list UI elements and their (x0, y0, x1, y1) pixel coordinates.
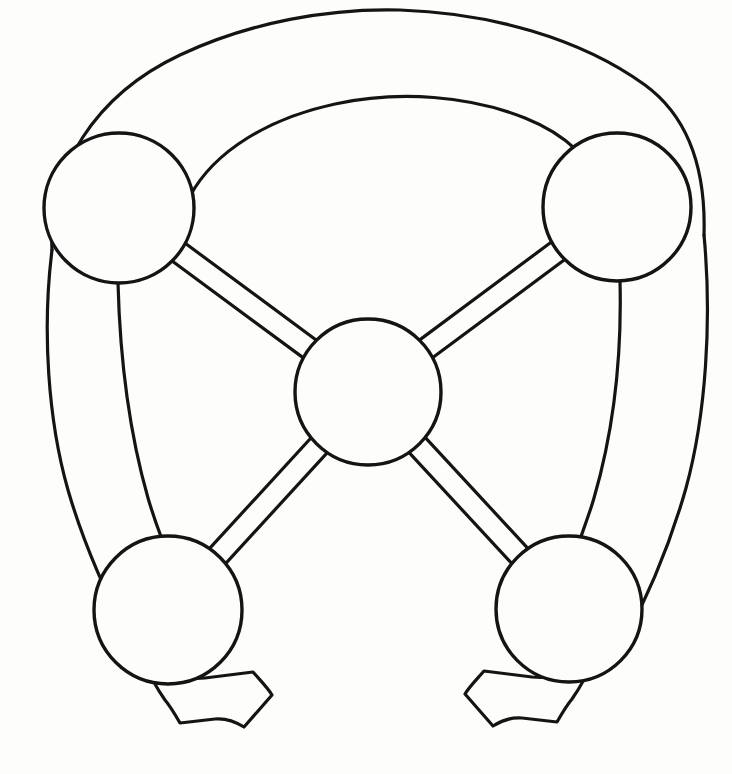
top-left-node (44, 133, 194, 283)
spoke-hub-bottom-right (403, 431, 535, 571)
spoke-hub-top-right (412, 236, 572, 363)
drawing-canvas (0, 0, 732, 774)
center-hub (295, 319, 441, 465)
nodes-layer (44, 133, 691, 684)
figure-svg (0, 0, 732, 774)
spoke-hub-top-left (165, 238, 324, 364)
bottom-left-node (94, 536, 242, 684)
spoke-hub-bottom-left (203, 431, 333, 570)
rim-inner-top-edge (190, 96, 604, 196)
top-right-node (543, 133, 691, 281)
bottom-right-node (496, 536, 642, 682)
